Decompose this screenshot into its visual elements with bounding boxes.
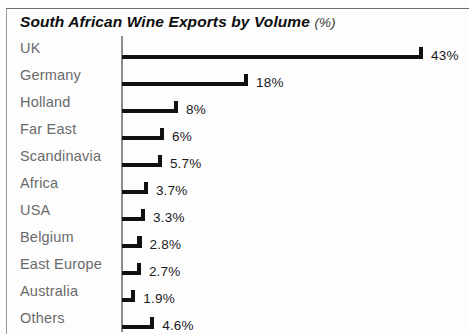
bar-stem (122, 55, 423, 59)
value-label: 3.3% (153, 209, 185, 226)
value-label: 2.7% (149, 263, 181, 280)
chart-row: Scandinavia5.7% (0, 144, 469, 171)
bar (122, 208, 145, 221)
bar-end-cap (419, 47, 423, 60)
category-label: East Europe (20, 254, 102, 274)
bar (122, 316, 154, 329)
bar (122, 289, 135, 302)
chart-row: Others4.6% (0, 306, 469, 333)
category-label: Far East (20, 119, 76, 139)
chart-row: Africa3.7% (0, 171, 469, 198)
category-label: Others (20, 308, 65, 328)
bar-stem (122, 82, 248, 86)
bar-end-cap (174, 101, 178, 114)
value-label: 4.6% (162, 317, 194, 334)
value-label: 6% (172, 128, 192, 145)
bar (122, 73, 248, 86)
bar-end-cap (158, 155, 162, 168)
category-label: Germany (20, 65, 81, 85)
bar-end-cap (144, 182, 148, 195)
value-label: 3.7% (156, 182, 188, 199)
category-label: Belgium (20, 227, 74, 247)
chart-row: Belgium2.8% (0, 225, 469, 252)
chart-row: East Europe2.7% (0, 252, 469, 279)
chart-row: Far East6% (0, 117, 469, 144)
bar (122, 100, 178, 113)
category-label: Africa (20, 173, 58, 193)
bar-end-cap (141, 209, 145, 222)
value-label: 18% (256, 74, 284, 91)
category-label: Holland (20, 92, 71, 112)
bar-end-cap (137, 263, 141, 276)
chart-title-text: South African Wine Exports by Volume (20, 13, 310, 30)
bar (122, 235, 142, 248)
bar (122, 181, 148, 194)
bar-end-cap (150, 317, 154, 330)
chart-title-unit: (%) (314, 15, 335, 30)
bar (122, 127, 164, 140)
bar-end-cap (131, 290, 135, 303)
value-label: 1.9% (143, 290, 175, 307)
bar (122, 46, 423, 59)
chart-row: USA3.3% (0, 198, 469, 225)
bar-end-cap (137, 236, 141, 249)
bar-stem (122, 163, 162, 167)
value-label: 43% (431, 47, 459, 64)
chart-row: UK43% (0, 36, 469, 63)
category-label: USA (20, 200, 50, 220)
category-label: Scandinavia (20, 146, 101, 166)
chart-figure: South African Wine Exports by Volume (%)… (0, 0, 469, 334)
value-label: 5.7% (170, 155, 202, 172)
chart-row: Holland8% (0, 90, 469, 117)
chart-title: South African Wine Exports by Volume (%) (20, 12, 335, 32)
bar-end-cap (244, 74, 248, 87)
chart-row: Australia1.9% (0, 279, 469, 306)
chart-row: Germany18% (0, 63, 469, 90)
bar (122, 262, 141, 275)
bar-rows-container: UK43%Germany18%Holland8%Far East6%Scandi… (0, 36, 469, 333)
plot-area: UK43%Germany18%Holland8%Far East6%Scandi… (0, 36, 469, 334)
value-label: 2.8% (150, 236, 182, 253)
bar (122, 154, 162, 167)
value-label: 8% (186, 101, 206, 118)
category-label: UK (20, 38, 41, 58)
bar-stem (122, 109, 178, 113)
category-label: Australia (20, 281, 78, 301)
bar-end-cap (160, 128, 164, 141)
bar-stem (122, 136, 164, 140)
